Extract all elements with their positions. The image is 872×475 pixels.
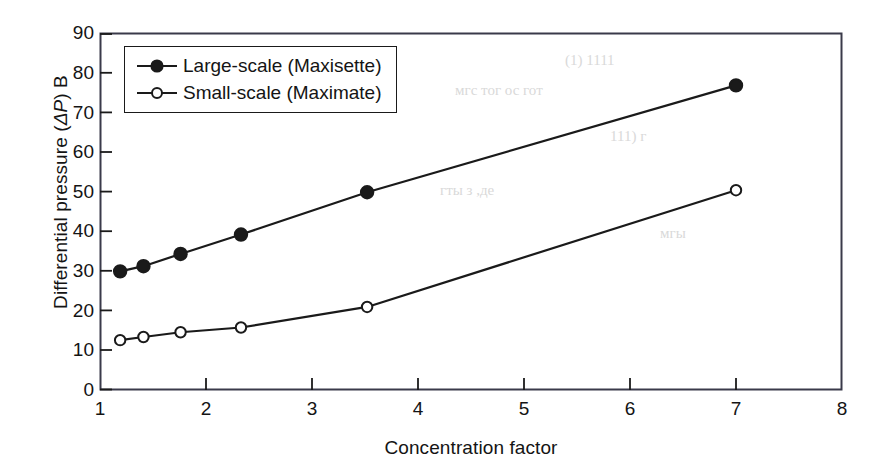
series-small-scale	[115, 185, 741, 345]
data-point	[730, 79, 742, 91]
data-point	[235, 228, 247, 240]
data-point	[174, 248, 186, 260]
legend-label-small-scale: Small-scale (Maximate)	[183, 82, 381, 104]
data-point	[175, 327, 185, 337]
series-line	[120, 85, 736, 271]
series-line	[120, 190, 736, 340]
data-point	[362, 302, 372, 312]
data-point	[361, 186, 373, 198]
data-point	[138, 332, 148, 342]
x-axis-ticks	[206, 378, 736, 390]
y-axis-ticks	[100, 34, 112, 390]
chart-figure: (1) 1111 мгс тог ос гот 111) г гты з ,де…	[0, 0, 872, 475]
data-point	[236, 322, 246, 332]
data-point	[115, 335, 125, 345]
legend-key-open-circle-icon	[135, 83, 179, 103]
legend-key-filled-circle-icon	[135, 56, 179, 76]
chart-legend: Large-scale (Maxisette) Small-scale (Max…	[124, 46, 397, 113]
data-point	[731, 185, 741, 195]
data-point	[114, 265, 126, 277]
series-layer	[114, 79, 742, 345]
legend-label-large-scale: Large-scale (Maxisette)	[183, 55, 382, 77]
data-point	[137, 260, 149, 272]
legend-item-small-scale: Small-scale (Maximate)	[135, 79, 382, 106]
legend-item-large-scale: Large-scale (Maxisette)	[135, 52, 382, 79]
